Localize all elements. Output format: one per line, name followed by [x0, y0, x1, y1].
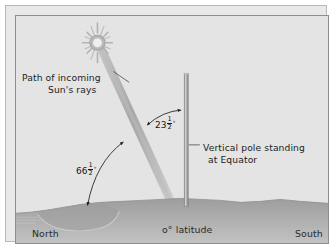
elevation-angle-whole: 66: [76, 166, 87, 176]
tilt-angle-label: 2312°: [155, 116, 175, 130]
ray-label-line2: Sun's rays: [22, 84, 101, 96]
tilt-angle-fraction: 12: [167, 116, 172, 130]
tilt-angle-whole: 23: [155, 120, 166, 130]
equator-latitude-label: o° latitude: [162, 224, 212, 236]
tilt-angle-denominator: 2: [167, 124, 172, 131]
elevation-angle-denominator: 2: [88, 170, 93, 177]
pole-label-line2: at Equator: [203, 154, 305, 166]
pole-label-line1: Vertical pole standing: [203, 142, 305, 153]
elevation-angle-fraction: 12: [88, 162, 93, 176]
figure-inner-frame: Path of incoming Sun's rays Vertical pol…: [15, 15, 329, 244]
figure-outer-frame: Path of incoming Sun's rays Vertical pol…: [5, 5, 327, 242]
north-label: North: [32, 228, 59, 240]
elevation-angle-label: 6612°: [76, 162, 96, 176]
vertical-pole: [184, 73, 188, 206]
elevation-angle-degree-symbol: °: [94, 166, 97, 172]
ray-label: Path of incoming Sun's rays: [22, 72, 101, 95]
ray-label-line1: Path of incoming: [22, 72, 101, 83]
pole-label: Vertical pole standing at Equator: [203, 142, 305, 165]
figure-container: Path of incoming Sun's rays Vertical pol…: [0, 0, 332, 247]
ground-terrain: [16, 198, 328, 243]
south-label: South: [295, 228, 323, 240]
tilt-angle-degree-symbol: °: [173, 120, 176, 126]
